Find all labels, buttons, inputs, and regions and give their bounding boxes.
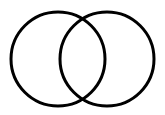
right-set-circle xyxy=(60,12,154,106)
left-set-circle xyxy=(11,12,105,106)
venn-diagram xyxy=(0,0,165,115)
